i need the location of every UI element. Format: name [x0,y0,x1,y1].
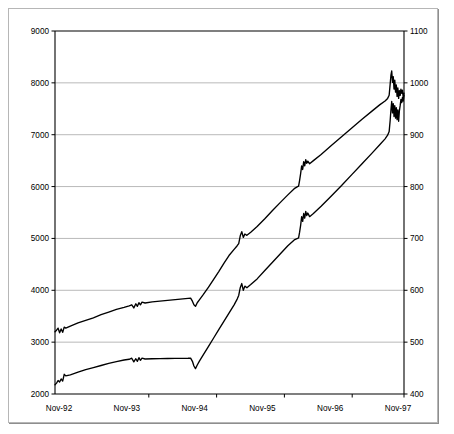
x-axis-tick-label: Nov-96 [317,404,344,413]
right-axis-tick-label: 500 [410,338,424,347]
left-axis-labels: 20003000400050006000700080009000 [31,27,50,399]
left-axis-tick-label: 2000 [31,390,50,399]
gridlines-group [55,83,404,342]
right-axis-tick-label: 700 [410,234,424,243]
right-axis-tick-label: 400 [410,390,424,399]
series-upper-series [55,71,404,333]
right-axis-tick-label: 1000 [410,79,429,88]
left-axis-tick-label: 3000 [31,338,50,347]
x-axis-tick-label: Nov-93 [114,404,141,413]
data-series-group [55,71,404,385]
x-axis-tick-label: Nov-97 [385,404,412,413]
x-axis-labels: Nov-92Nov-93Nov-94Nov-95Nov-96Nov-97 [46,404,412,413]
right-axis-tick-label: 900 [410,131,424,140]
series-lower-series [55,95,404,384]
right-axis-tick-label: 1100 [410,27,428,36]
left-axis-tick-label: 7000 [31,131,50,140]
left-axis-tick-label: 4000 [31,286,50,295]
right-axis-tick-label: 600 [410,286,424,295]
right-axis-labels: 40050060070080090010001100 [410,27,429,399]
left-axis-tick-label: 9000 [31,27,50,36]
x-axis-tick-label: Nov-92 [46,404,73,413]
left-axis-tick-label: 5000 [31,234,50,243]
x-axis-tick-label: Nov-95 [249,404,276,413]
left-axis-tick-label: 6000 [31,183,50,192]
left-axis-tick-label: 8000 [31,79,50,88]
right-axis-tick-label: 800 [410,183,424,192]
line-chart: 20003000400050006000700080009000 4005006… [0,0,454,434]
x-axis-tick-label: Nov-94 [181,404,208,413]
